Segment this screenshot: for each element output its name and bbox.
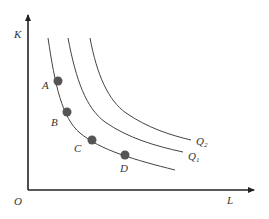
origin-label: O [14,195,22,207]
point-c [88,136,97,145]
point-label-b: B [51,116,58,128]
point-a [54,77,63,86]
curve-label-q1: Q1 [188,150,199,164]
y-axis-label: K [13,28,22,40]
point-label-c: C [74,142,82,154]
isoquant-curve-q0 [48,38,175,170]
isoquant-curve-q2 [90,38,191,140]
isoquant-diagram: K L O Q1 Q2 A B C D [0,0,269,219]
point-label-a: A [41,79,49,91]
x-axis-label: L [226,194,233,206]
point-b [63,108,72,117]
point-label-d: D [119,162,128,174]
point-d [121,151,130,160]
isoquant-curve-q1 [68,38,183,152]
curve-label-q2: Q2 [196,135,208,149]
